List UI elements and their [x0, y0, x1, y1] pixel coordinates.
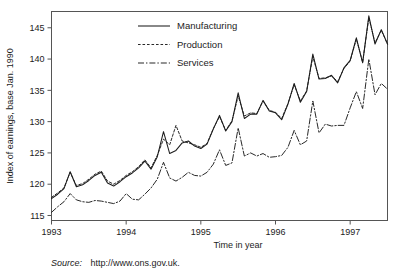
x-tick-label: 1996 — [265, 227, 285, 237]
source-prefix: Source: — [51, 258, 83, 268]
x-tick-label: 1997 — [340, 227, 360, 237]
y-tick-label: 145 — [29, 23, 44, 33]
y-tick-label: 125 — [29, 148, 44, 158]
y-tick-label: 140 — [29, 54, 44, 64]
source-url: http://www.ons.gov.uk. — [90, 258, 179, 268]
y-tick-label: 120 — [29, 179, 44, 189]
x-tick-label: 1994 — [116, 227, 136, 237]
x-tick-label: 1995 — [191, 227, 211, 237]
legend-label-production: Production — [177, 39, 222, 50]
earnings-index-line-chart: 115120125130135140145 199319941995199619… — [0, 0, 399, 276]
x-axis-title: Time in year — [213, 240, 262, 250]
legend-label-manufacturing: Manufacturing — [177, 20, 237, 31]
chart-figure: 115120125130135140145 199319941995199619… — [0, 0, 399, 276]
y-tick-label: 115 — [30, 211, 44, 221]
y-tick-label: 135 — [29, 86, 44, 96]
y-tick-label: 130 — [29, 117, 44, 127]
x-tick-label: 1993 — [41, 227, 61, 237]
legend-label-services: Services — [177, 57, 214, 68]
y-axis-title: Index of earnings, base Jan. 1990 — [5, 48, 15, 184]
